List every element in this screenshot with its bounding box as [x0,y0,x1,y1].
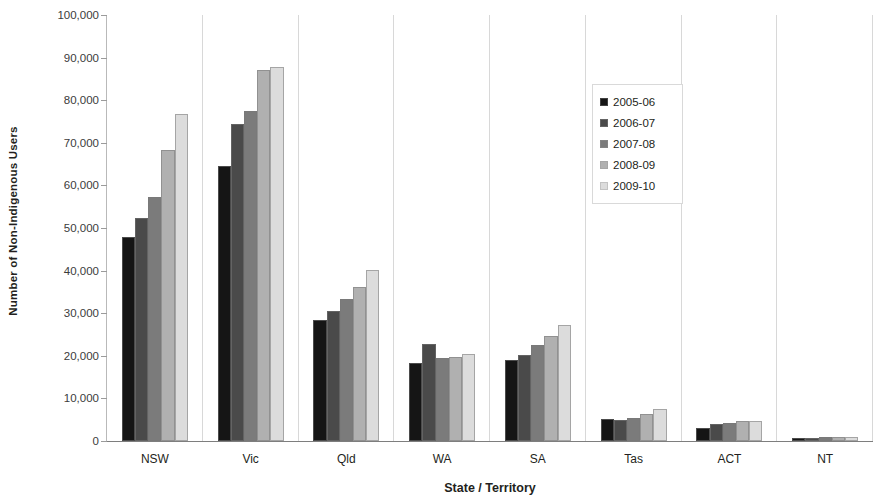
bar-group [203,15,299,441]
legend-swatch-icon [600,98,608,106]
x-axis-line [106,441,873,442]
bar[interactable] [340,299,353,441]
y-axis-tick-label: 90,000 [0,52,99,64]
bar[interactable] [792,438,805,441]
bar[interactable] [845,437,858,441]
legend-swatch-icon [600,182,608,190]
legend-label: 2008-09 [613,159,655,171]
legend-item[interactable]: 2008-09 [600,154,676,175]
bar[interactable] [723,423,736,441]
x-axis-title: State / Territory [107,481,873,495]
x-axis-tick-label: WA [433,452,452,466]
bar[interactable] [832,437,845,441]
bar[interactable] [218,166,231,441]
legend-item[interactable]: 2005-06 [600,91,676,112]
bar[interactable] [696,428,709,441]
bar[interactable] [353,287,366,441]
bar[interactable] [175,114,188,441]
bar[interactable] [710,424,723,441]
bar-group [682,15,778,441]
bar[interactable] [601,419,614,441]
bar-group [299,15,395,441]
y-axis-tick-label: 100,000 [0,9,99,21]
x-axis-tick-label: Qld [337,452,356,466]
y-axis-tick-label: 50,000 [0,222,99,234]
bar[interactable] [614,420,627,441]
bar-group [107,15,203,441]
x-axis-tick-label: ACT [717,452,741,466]
bar[interactable] [749,421,762,441]
category-separator [872,15,873,441]
legend-label: 2005-06 [613,96,655,108]
bar-group [586,15,682,441]
plot-area: 010,00020,00030,00040,00050,00060,00070,… [107,15,873,441]
y-axis-tick-mark [101,441,107,442]
y-axis-tick-label: 10,000 [0,392,99,404]
bar[interactable] [244,111,257,441]
bar[interactable] [462,354,475,441]
x-axis-tick-label: SA [530,452,546,466]
legend: 2005-062006-072007-082008-092009-10 [592,84,683,204]
bar[interactable] [805,438,818,441]
bar[interactable] [819,437,832,441]
x-axis-tick-label: Vic [242,452,258,466]
bar[interactable] [270,67,283,441]
legend-swatch-icon [600,161,608,169]
bar[interactable] [231,124,244,441]
y-axis-tick-label: 80,000 [0,94,99,106]
x-axis-tick-label: Tas [624,452,643,466]
bar[interactable] [122,237,135,441]
x-axis-tick-label: NSW [141,452,169,466]
legend-label: 2007-08 [613,138,655,150]
bar[interactable] [640,414,653,441]
y-axis-tick-label: 20,000 [0,350,99,362]
bar[interactable] [531,345,544,441]
bar[interactable] [436,358,449,441]
legend-swatch-icon [600,119,608,127]
y-axis-tick-label: 30,000 [0,307,99,319]
bar-chart: Number of Non-Indigenous Users 010,00020… [0,0,881,503]
y-axis-tick-label: 60,000 [0,179,99,191]
y-axis-title-label: Number of Non-Indigenous Users [7,126,19,315]
legend-item[interactable]: 2007-08 [600,133,676,154]
y-axis-tick-label: 70,000 [0,137,99,149]
legend-label: 2006-07 [613,117,655,129]
legend-swatch-icon [600,140,608,148]
y-axis-tick-label: 0 [0,435,99,447]
bar[interactable] [327,311,340,441]
bar[interactable] [627,418,640,441]
x-axis-tick-label: NT [817,452,833,466]
bar[interactable] [653,409,666,441]
bar[interactable] [505,360,518,441]
bar[interactable] [135,218,148,441]
bar[interactable] [558,325,571,441]
bar[interactable] [257,70,270,441]
bar[interactable] [736,421,749,441]
bar[interactable] [161,150,174,441]
legend-item[interactable]: 2006-07 [600,112,676,133]
bar-group [777,15,873,441]
bar[interactable] [518,355,531,441]
legend-item[interactable]: 2009-10 [600,175,676,196]
bar[interactable] [313,320,326,441]
bar[interactable] [148,197,161,441]
bar[interactable] [366,270,379,441]
bar-group [394,15,490,441]
bar[interactable] [409,363,422,441]
bar-group [490,15,586,441]
y-axis-title: Number of Non-Indigenous Users [0,0,26,441]
bar[interactable] [422,344,435,441]
legend-label: 2009-10 [613,180,655,192]
bar[interactable] [449,357,462,441]
bar[interactable] [544,336,557,441]
y-axis-tick-label: 40,000 [0,265,99,277]
